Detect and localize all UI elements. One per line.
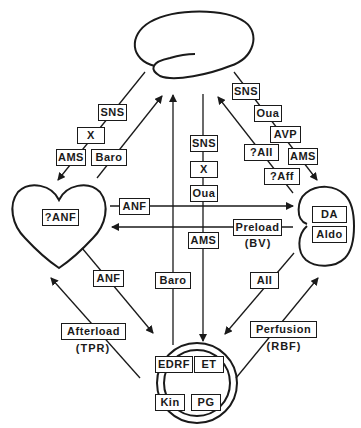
label-x-brain-vessel: X (190, 161, 218, 178)
label-aff-kidney-brain: ?Aff (264, 168, 300, 185)
label-aii-kidney-vessel: AII (250, 272, 279, 289)
label-preload: Preload (233, 219, 282, 236)
label-ams-brain-heart: AMS (56, 149, 86, 166)
label-kin: Kin (155, 394, 185, 411)
label-oua-brain-kidney: Oua (254, 105, 282, 122)
label-anf-heart-kidney: ANF (119, 198, 150, 215)
label-anf-heart-vessel: ANF (93, 270, 124, 287)
label-sns-brain-heart: SNS (98, 104, 127, 121)
vessel-icon (157, 343, 237, 423)
label-avp-brain-kidney: AVP (270, 126, 301, 143)
label-perfusion: Perfusion (250, 321, 317, 338)
label-sns-brain-kidney: SNS (232, 83, 260, 100)
label-anf-heart: ?ANF (42, 209, 79, 226)
label-da-kidney: DA (312, 206, 347, 223)
label-ams-brain-vessel: AMS (188, 232, 219, 249)
label-tpr: (TPR) (71, 342, 115, 354)
label-afterload: Afterload (61, 323, 126, 340)
label-aldo-kidney: Aldo (312, 226, 347, 243)
label-x-brain-heart: X (77, 127, 105, 144)
label-et: ET (194, 356, 224, 373)
label-edrf: EDRF (155, 356, 193, 373)
label-ams-brain-kidney: AMS (288, 148, 318, 165)
brain-icon (135, 12, 254, 79)
label-oua-brain-vessel: Oua (190, 185, 218, 202)
label-aii-kidney-brain: ?AII (244, 144, 279, 161)
label-baro-heart-brain: Baro (91, 149, 127, 166)
edge-heart-to-vessel (82, 248, 153, 333)
heart-icon (12, 185, 105, 268)
label-rbf: (RBF) (262, 340, 306, 352)
label-pg: PG (191, 394, 221, 411)
label-bv: (BV) (240, 237, 276, 249)
label-baro-vessel-brain: Baro (155, 272, 191, 289)
label-sns-brain-vessel: SNS (190, 135, 218, 152)
